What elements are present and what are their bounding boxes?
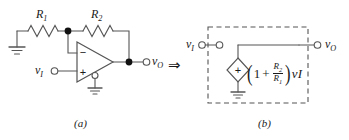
panel-b-output-label: vO <box>325 38 336 54</box>
resistor-r1-label: R1 <box>36 8 47 24</box>
expr-close-paren: ) <box>285 62 291 85</box>
ground-symbol-source <box>231 92 245 98</box>
resistor-r2-label: R2 <box>91 8 102 24</box>
wire-feedback-right <box>113 31 129 64</box>
resistor-r1-body <box>28 26 58 37</box>
implies-arrow-icon: ⇒ <box>168 56 181 74</box>
panel-b-caption: (b) <box>258 117 271 129</box>
resistor-r2-body <box>83 26 113 37</box>
dependent-source-expression: ( 1 + R2 R1 ) vI <box>246 62 302 86</box>
panel-a-caption: (a) <box>74 117 87 129</box>
opamp-noninverting-sign: + <box>80 66 86 78</box>
terminal-circle-vi-b-inner <box>216 42 223 49</box>
junction-dot-output <box>126 59 133 66</box>
figure-root: − + R1 R2 vI vO (a) ⇒ <box>0 0 349 140</box>
expr-one: 1 <box>254 66 261 82</box>
ground-symbol-opamp <box>88 88 102 94</box>
expr-fraction: R2 R1 <box>273 62 284 86</box>
wire-node-to-inverting-input <box>68 31 77 53</box>
terminal-circle-vi-b-outer <box>199 42 206 49</box>
panel-b-input-label: vI <box>186 38 194 54</box>
panel-a-output-label: vO <box>152 55 163 71</box>
panel-a-schematic: − + <box>0 0 175 120</box>
terminal-circle-vi-a <box>51 68 58 75</box>
expr-open-paren: ( <box>247 62 253 85</box>
dependent-source-polarity-sign: + <box>235 64 241 76</box>
junction-dot-inverting <box>65 28 72 35</box>
expr-numerator: R2 <box>273 62 284 73</box>
panel-b-schematic: + <box>190 0 349 120</box>
panel-a-input-label: vI <box>35 64 43 80</box>
expr-plus: + <box>262 66 269 82</box>
expr-variable: vI <box>292 66 302 82</box>
expr-denominator: R1 <box>273 73 284 85</box>
ground-symbol-left <box>9 47 25 54</box>
terminal-circle-opamp-ref <box>92 73 98 79</box>
terminal-circle-vo-b <box>314 42 321 49</box>
opamp-inverting-sign: − <box>80 46 86 58</box>
terminal-circle-vo-a <box>143 59 150 66</box>
